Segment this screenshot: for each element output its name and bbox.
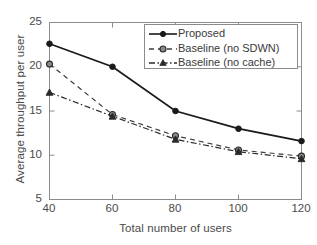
series-baseline-no-cache	[46, 89, 305, 162]
x-tick-label: 100	[215, 203, 261, 215]
legend-item-baseline-no-sdwn: Baseline (no SDWN)	[145, 41, 297, 56]
y-axis-title: Average throughput per user	[14, 19, 26, 199]
data-point-marker	[47, 61, 53, 67]
legend-label: Baseline (no cache)	[178, 57, 275, 68]
chart-figure: 25 20 15 10 5 40 60 80 100 120 Average t…	[0, 0, 317, 245]
legend-swatch-proposed	[148, 27, 178, 41]
legend: Proposed Baseline (no SDWN) Baseline (no…	[144, 24, 298, 69]
data-point-marker	[173, 108, 179, 114]
x-tick-label: 120	[278, 203, 317, 215]
series-line	[50, 92, 302, 158]
legend-swatch-baseline-no-cache	[148, 56, 178, 70]
data-point-marker	[236, 126, 242, 132]
legend-item-baseline-no-cache: Baseline (no cache)	[145, 55, 297, 70]
data-point-marker	[110, 64, 116, 70]
legend-swatch-baseline-no-sdwn	[148, 42, 178, 56]
legend-label: Proposed	[178, 28, 225, 39]
data-point-marker	[47, 41, 53, 47]
x-tick-label: 80	[152, 203, 198, 215]
legend-item-proposed: Proposed	[145, 26, 297, 41]
x-tick-label: 60	[89, 203, 135, 215]
x-axis-title: Total number of users	[49, 222, 302, 234]
legend-label: Baseline (no SDWN)	[178, 43, 279, 54]
x-tick-label: 40	[26, 203, 72, 215]
data-point-marker	[299, 138, 305, 144]
data-point-marker	[46, 89, 53, 95]
